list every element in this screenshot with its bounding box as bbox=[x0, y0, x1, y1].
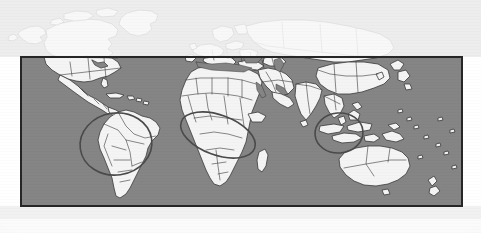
map-canvas: World map with tropical belt highlighted… bbox=[0, 0, 481, 233]
world-map-figure: World map with tropical belt highlighted… bbox=[0, 0, 481, 233]
